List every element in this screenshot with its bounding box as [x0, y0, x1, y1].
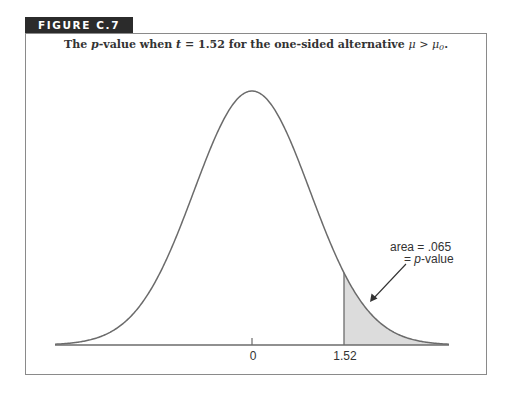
- tick-label-1-52: 1.52: [333, 349, 356, 363]
- normal-curve-chart: [0, 0, 513, 395]
- annotation-text: -value: [421, 252, 454, 266]
- density-curve: [55, 91, 449, 344]
- annotation-text: =: [404, 252, 414, 266]
- arrow-icon: [370, 264, 406, 302]
- tick-label-0: 0: [250, 349, 257, 363]
- annotation-pvalue: = p-value: [404, 252, 454, 266]
